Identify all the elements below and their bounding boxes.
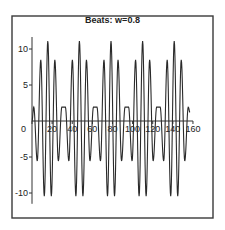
y-tick-label: 5 <box>23 80 28 90</box>
x-axis-ticks: 020406080100120140160 <box>21 121 200 134</box>
y-axis-ticks: 105-5-10 <box>15 44 32 198</box>
y-tick-label: 10 <box>18 44 28 54</box>
x-tick-label: 0 <box>21 124 26 134</box>
y-tick-label: -5 <box>20 152 28 162</box>
chart-title: Beats: w=0.8 <box>85 15 140 25</box>
x-tick-label: 20 <box>47 124 57 134</box>
x-tick-label: 40 <box>67 124 77 134</box>
x-tick-label: 160 <box>185 124 200 134</box>
beats-curve <box>32 41 190 196</box>
y-tick-label: -10 <box>15 188 28 198</box>
beats-chart: Beats: w=0.8 020406080100120140160 105-5… <box>0 0 225 230</box>
